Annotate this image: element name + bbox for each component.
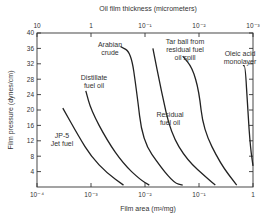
series-curve: [243, 66, 253, 166]
series-label: Arabiancrude: [98, 41, 122, 56]
plot-frame: [37, 33, 253, 187]
y-tick-label: 16: [27, 122, 35, 129]
x2-tick-label: 10: [33, 22, 41, 29]
y-tick-label: 12: [27, 137, 35, 144]
x-tick-label: 10⁻⁴: [30, 191, 44, 198]
y-tick-label: 40: [27, 29, 35, 36]
top-axis-title: Oil film thickness (micrometers): [99, 5, 197, 13]
x-tick-label: 10⁻²: [138, 191, 152, 198]
x2-tick-label: 10⁻²: [192, 22, 206, 29]
bottom-axis-title: Film area (m²/mg): [120, 205, 176, 213]
y-tick-label: 28: [27, 76, 35, 83]
y-axis-title: Film pressure (dynes/cm): [7, 71, 15, 150]
series-label: Tar ball fromresidual fueloil spill: [166, 38, 205, 62]
x2-tick-label: 10⁻³: [246, 22, 260, 29]
y-tick-label: 24: [27, 91, 35, 98]
y-tick-label: 32: [27, 60, 35, 67]
series-label: Distillatefuel oil: [81, 74, 108, 89]
x-tick-label: 10⁻¹: [192, 191, 206, 198]
series-label: Oleic acidmonolayer: [224, 50, 257, 66]
series-label: JP-5Jet fuel: [51, 132, 74, 147]
series-label: Residualfuel oil: [156, 111, 184, 126]
series-curve: [86, 91, 150, 185]
axis-ticks: 10⁻⁴10⁻³10⁻²10⁻¹110110⁻¹10⁻²10⁻³48121620…: [27, 22, 261, 198]
y-tick-label: 8: [30, 153, 34, 160]
y-tick-label: 4: [30, 168, 34, 175]
x-tick-label: 1: [251, 191, 255, 198]
x2-tick-label: 10⁻¹: [138, 22, 152, 29]
series-curve: [183, 56, 237, 185]
y-tick-label: 36: [27, 45, 35, 52]
oil-film-pressure-chart: Oil film thickness (micrometers) 10⁻⁴10⁻…: [0, 0, 273, 217]
y-tick-label: 20: [27, 106, 35, 113]
x-tick-label: 10⁻³: [84, 191, 98, 198]
x2-tick-label: 1: [89, 22, 93, 29]
